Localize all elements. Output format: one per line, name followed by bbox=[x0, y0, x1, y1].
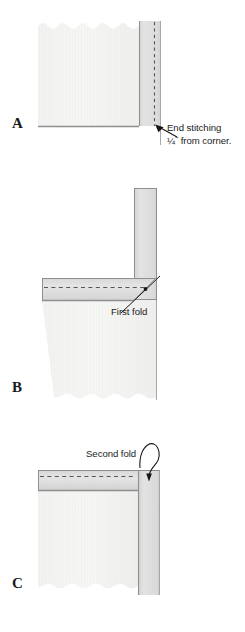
callout-a-line2: ¼˝ from corner. bbox=[167, 135, 231, 148]
fabric-weave-c bbox=[38, 490, 138, 589]
panel-label-c: C bbox=[12, 576, 23, 591]
callout-c: Second fold bbox=[86, 448, 136, 461]
callout-a-line1: End stitching bbox=[167, 122, 231, 135]
fabric-weave-a bbox=[38, 23, 139, 126]
panel-c: C Second fold bbox=[0, 410, 245, 632]
panel-c-illustration bbox=[0, 410, 245, 632]
panel-a-illustration bbox=[0, 0, 245, 180]
callout-b-line1: First fold bbox=[111, 306, 147, 319]
panel-b-illustration bbox=[0, 180, 245, 410]
hem-band-horizontal-weave-c bbox=[38, 470, 138, 490]
panel-a: A End stitching ¼˝ from corner. bbox=[0, 0, 245, 180]
vertical-hem-band-weave-c bbox=[138, 470, 160, 595]
callout-c-line1: Second fold bbox=[86, 448, 136, 461]
callout-b: First fold bbox=[111, 306, 147, 319]
panel-label-a: A bbox=[12, 116, 23, 131]
vertical-seam-band-weave-a bbox=[139, 21, 161, 126]
sewing-diagram-figure: A End stitching ¼˝ from corner. bbox=[0, 0, 245, 632]
callout-a: End stitching ¼˝ from corner. bbox=[167, 122, 231, 147]
callout-leader-dot-b bbox=[144, 287, 148, 291]
panel-b: B First fold bbox=[0, 180, 245, 410]
panel-label-b: B bbox=[12, 380, 22, 395]
